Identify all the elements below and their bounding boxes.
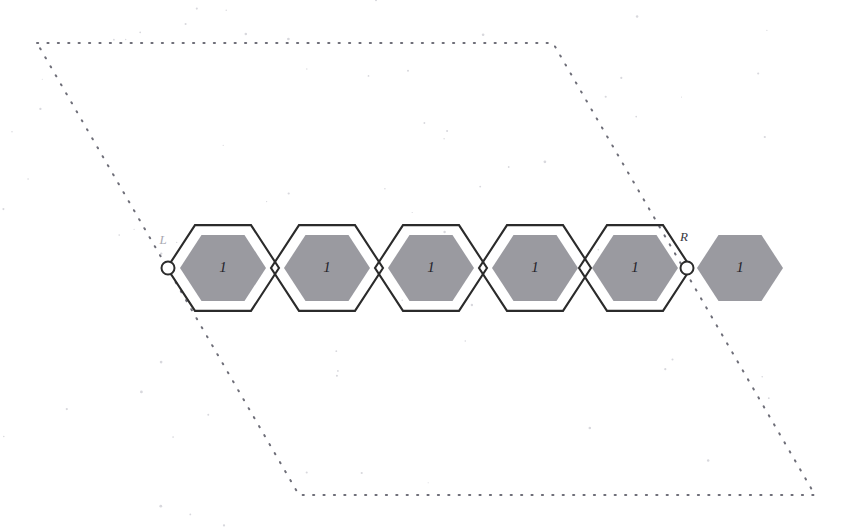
scan-speckle bbox=[635, 116, 637, 118]
hexagon-chain-figure: 111111 L R bbox=[0, 0, 845, 530]
scan-speckle bbox=[761, 376, 763, 378]
scan-speckle bbox=[361, 472, 363, 474]
scan-speckle bbox=[3, 436, 5, 438]
scan-speckle bbox=[306, 471, 308, 473]
scan-speckle bbox=[443, 231, 445, 233]
scan-speckle bbox=[508, 166, 510, 168]
scan-speckle bbox=[139, 31, 141, 33]
scan-speckle bbox=[245, 33, 248, 36]
scan-speckle bbox=[196, 8, 198, 10]
scan-speckle bbox=[368, 75, 370, 77]
scan-speckle bbox=[681, 97, 682, 98]
scan-speckle bbox=[443, 138, 444, 139]
scan-speckle bbox=[401, 299, 403, 301]
scan-speckle bbox=[605, 96, 607, 98]
left-endpoint-label: L bbox=[158, 232, 166, 247]
hex-cell-label: 1 bbox=[531, 259, 539, 275]
scan-speckle bbox=[27, 178, 29, 180]
scan-speckle bbox=[407, 70, 409, 72]
scan-speckle bbox=[172, 436, 174, 438]
scan-speckle bbox=[671, 358, 673, 360]
scan-speckle bbox=[465, 340, 467, 342]
scan-speckle bbox=[384, 188, 386, 190]
scan-speckle bbox=[597, 249, 599, 251]
scan-speckle bbox=[768, 397, 770, 399]
scan-speckle bbox=[306, 68, 307, 69]
scan-speckle bbox=[764, 136, 766, 138]
scan-speckle bbox=[2, 208, 4, 210]
scan-speckle bbox=[223, 524, 225, 526]
scan-speckle bbox=[159, 505, 162, 508]
hex-cell-label: 1 bbox=[427, 259, 435, 275]
scan-speckle bbox=[266, 201, 267, 202]
scan-speckle bbox=[185, 23, 187, 25]
figure-root: 111111 L R bbox=[0, 0, 845, 530]
scan-speckle bbox=[423, 122, 425, 124]
scan-speckle bbox=[42, 79, 43, 80]
scan-speckle bbox=[225, 9, 226, 10]
hex-cell-label: 1 bbox=[631, 259, 639, 275]
scan-speckle bbox=[189, 513, 191, 515]
scan-speckle bbox=[636, 15, 639, 18]
scan-speckle bbox=[337, 370, 339, 372]
right-endpoint-circle bbox=[681, 262, 694, 275]
scan-speckle bbox=[288, 192, 290, 194]
scan-speckle bbox=[707, 459, 709, 461]
scan-speckle bbox=[446, 130, 448, 132]
scan-speckle bbox=[140, 391, 143, 394]
scan-speckle bbox=[479, 186, 481, 188]
scan-speckle bbox=[223, 145, 224, 146]
scan-speckle bbox=[620, 77, 622, 79]
hex-cell-label: 1 bbox=[736, 259, 744, 275]
scan-speckle bbox=[287, 38, 290, 41]
scan-speckle bbox=[118, 234, 120, 236]
scan-speckle bbox=[207, 414, 209, 416]
scan-speckle bbox=[544, 160, 547, 163]
scan-speckle bbox=[589, 427, 592, 430]
scan-speckle bbox=[757, 72, 759, 74]
scan-speckle bbox=[335, 350, 337, 352]
scan-speckle bbox=[39, 108, 41, 110]
scan-speckle bbox=[11, 131, 12, 132]
scan-speckle bbox=[133, 229, 134, 230]
scan-speckle bbox=[412, 212, 413, 213]
scan-speckle bbox=[160, 361, 163, 364]
scan-speckle bbox=[66, 408, 68, 410]
left-endpoint-circle bbox=[162, 262, 175, 275]
scan-speckle bbox=[336, 375, 338, 377]
scan-speckle bbox=[482, 33, 485, 36]
scan-speckle bbox=[176, 242, 177, 243]
right-endpoint-label: R bbox=[679, 229, 688, 244]
scan-speckle bbox=[125, 39, 126, 40]
hex-cell-label: 1 bbox=[219, 259, 227, 275]
scan-speckle bbox=[471, 304, 473, 306]
scan-speckle bbox=[428, 482, 429, 483]
hex-cell-label: 1 bbox=[323, 259, 331, 275]
scan-speckle bbox=[664, 368, 666, 370]
scan-speckle bbox=[766, 30, 767, 31]
scan-speckle bbox=[113, 39, 115, 41]
